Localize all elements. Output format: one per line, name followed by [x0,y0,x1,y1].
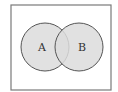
set-a-label: A [37,41,47,54]
set-b-label: B [78,41,86,54]
venn-diagram: A B [0,0,118,92]
